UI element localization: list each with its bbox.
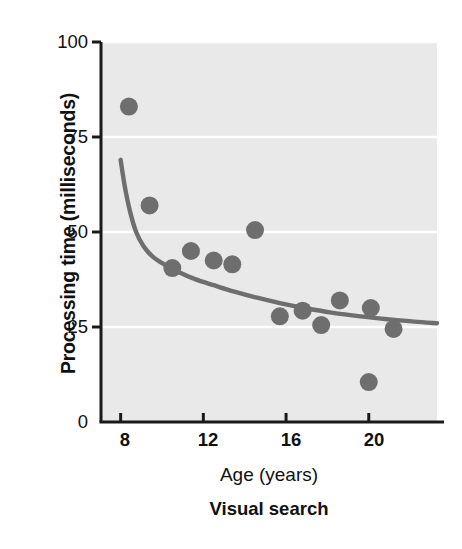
data-point: [294, 302, 312, 320]
data-point: [271, 307, 289, 325]
data-point: [362, 299, 380, 317]
data-point: [331, 291, 349, 309]
data-point: [141, 196, 159, 214]
figure: Processing time (milliseconds) 100 75 50…: [0, 0, 462, 549]
data-point: [120, 98, 138, 116]
data-point: [385, 320, 403, 338]
data-point: [163, 259, 181, 277]
data-point: [312, 316, 330, 334]
data-point: [182, 242, 200, 260]
data-point: [246, 221, 264, 239]
scatter-plot-canvas: [0, 0, 462, 549]
data-point: [205, 252, 223, 270]
data-point: [223, 255, 241, 273]
data-point: [360, 373, 378, 391]
